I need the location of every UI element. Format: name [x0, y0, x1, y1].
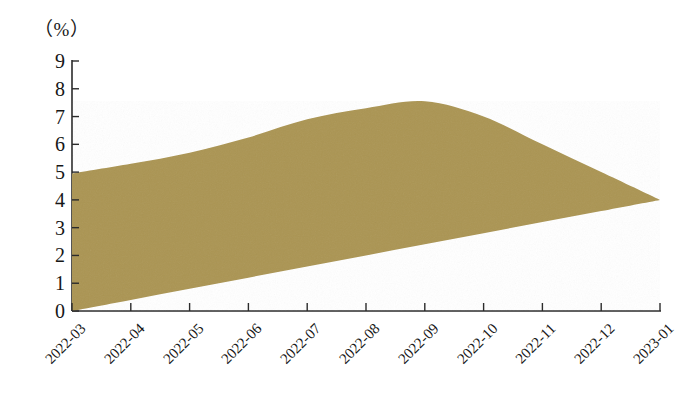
y-tick-label: 9: [43, 51, 65, 71]
band-area-chart: （%） 0123456789 2022-032022-042022-052022…: [0, 0, 689, 401]
y-tick-label: 5: [43, 162, 65, 182]
y-tick-label: 3: [43, 218, 65, 238]
y-tick-label: 8: [43, 79, 65, 99]
data-band-texture: [72, 101, 660, 311]
y-tick-label: 4: [43, 190, 65, 210]
y-tick-label: 6: [43, 134, 65, 154]
data-band-group: [72, 101, 660, 311]
y-tick-label: 2: [43, 245, 65, 265]
y-tick-label: 7: [43, 107, 65, 127]
y-tick-label: 1: [43, 273, 65, 293]
y-tick-label: 0: [43, 301, 65, 321]
